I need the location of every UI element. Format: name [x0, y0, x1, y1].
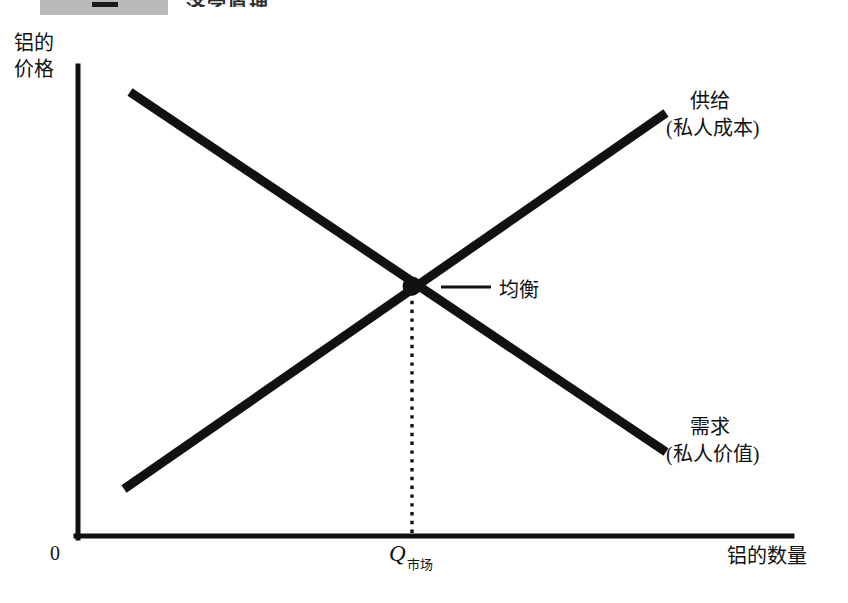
equilibrium-quantity-label: Q市场	[389, 541, 432, 570]
y-axis-title: 铝的 价格	[14, 30, 54, 82]
equilibrium-label: 均衡	[499, 274, 539, 303]
y-axis-title-line-1: 铝的	[14, 30, 54, 56]
equilibrium-quantity-subscript: 市场	[407, 557, 433, 572]
demand-curve-label-line-1: 需求	[690, 414, 759, 441]
supply-curve	[124, 113, 666, 489]
demand-curve-label: 需求 (私人价值)	[690, 414, 759, 468]
equilibrium-point-marker	[403, 277, 422, 296]
supply-curve-label: 供给 (私人成本)	[690, 88, 759, 142]
demand-curve	[130, 92, 666, 452]
supply-curve-label-line-2: (私人成本)	[666, 115, 759, 142]
supply-curve-label-line-1: 供给	[690, 88, 759, 115]
supply-demand-figure: 铝的 价格 铝的数量 0 Q市场 供给 (私人成本) 需求 (私人价值) 均衡	[0, 0, 848, 603]
x-axis-title: 铝的数量	[727, 540, 807, 569]
equilibrium-quantity-symbol: Q	[389, 541, 406, 566]
y-axis-title-line-2: 价格	[14, 56, 54, 82]
demand-curve-label-line-2: (私人价值)	[666, 441, 759, 468]
origin-label: 0	[50, 542, 60, 565]
